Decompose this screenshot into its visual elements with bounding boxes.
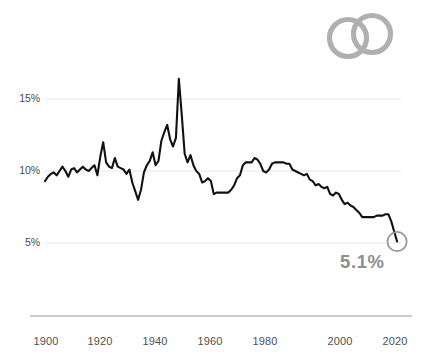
- xtick-label-1960: 1960: [185, 336, 235, 347]
- ytick-label-15: 15%: [6, 93, 40, 104]
- xtick-label-2000: 2000: [315, 336, 365, 347]
- xtick-label-2020: 2020: [370, 336, 420, 347]
- xtick-label-1940: 1940: [130, 336, 180, 347]
- xtick-label-1920: 1920: [75, 336, 125, 347]
- plot-area: [0, 0, 426, 362]
- chart-figure: 15% 10% 5% 1900 1920 1940 1960 1980 2000…: [0, 0, 426, 362]
- xtick-label-1980: 1980: [240, 336, 290, 347]
- ytick-label-10: 10%: [6, 165, 40, 176]
- value-callout-label: 5.1%: [340, 253, 385, 272]
- data-line-rate: [45, 79, 397, 242]
- ytick-label-5: 5%: [6, 237, 40, 248]
- xtick-label-1900: 1900: [21, 336, 71, 347]
